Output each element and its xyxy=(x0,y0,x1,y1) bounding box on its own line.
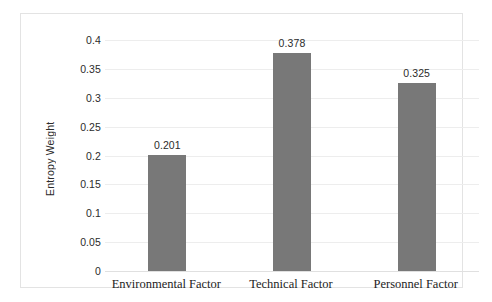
chart-page: { "chart_data": { "type": "bar", "title"… xyxy=(0,0,492,302)
bar[interactable] xyxy=(273,53,311,271)
y-axis-tick-label: 0.25 xyxy=(59,121,101,133)
plot-area: 0.2010.3780.325 xyxy=(105,40,479,271)
gridline xyxy=(105,271,479,272)
bar[interactable] xyxy=(148,155,186,271)
bar-value-label: 0.201 xyxy=(132,139,202,151)
y-axis-tick-labels: 00.050.10.150.20.250.30.350.4 xyxy=(57,40,101,271)
x-axis-category-label: Personnel Factor xyxy=(336,277,492,292)
y-axis-tick-label: 0.2 xyxy=(59,150,101,162)
y-axis-tick-label: 0 xyxy=(59,265,101,277)
y-axis-tick-label: 0.3 xyxy=(59,92,101,104)
y-axis-tick-label: 0.35 xyxy=(59,63,101,75)
y-axis-tick-label: 0.05 xyxy=(59,236,101,248)
bar-value-label: 0.378 xyxy=(257,37,327,49)
bar-value-label: 0.325 xyxy=(382,67,452,79)
y-axis-tick-label: 0.15 xyxy=(59,178,101,190)
bar[interactable] xyxy=(398,83,436,271)
chart-frame: Entropy Weight 00.050.10.150.20.250.30.3… xyxy=(20,13,463,288)
y-axis-tick-label: 0.4 xyxy=(59,34,101,46)
y-axis-tick-label: 0.1 xyxy=(59,207,101,219)
